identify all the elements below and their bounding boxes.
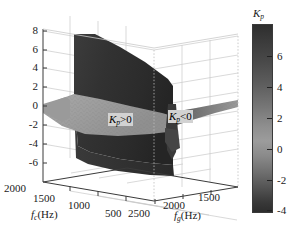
colorbar-tick-mark [267, 118, 272, 119]
annotation-kp-positive-sub: p [116, 118, 120, 127]
annotation-kp-positive-rel: >0 [120, 113, 132, 125]
z-tick-label: 2 [22, 81, 38, 92]
x-tick-label: 500 [105, 208, 122, 219]
z-tick-label: 6 [22, 44, 38, 55]
colorbar-tick-label: 2 [277, 113, 283, 124]
colorbar-tick-mark [267, 56, 272, 57]
annotation-kp-negative: Kp<0 [168, 110, 193, 123]
y-tick-label: 1500 [198, 192, 220, 203]
z-tick-label: -2 [18, 119, 38, 130]
colorbar-tick-mark [267, 87, 272, 88]
colorbar-tick-label: 6 [277, 51, 283, 62]
y-axis-label-unit: (Hz) [181, 209, 201, 221]
z-tick-label: -4 [18, 138, 38, 149]
x-tick-label: 1000 [68, 200, 90, 211]
colorbar-tick-label: -2 [277, 175, 286, 186]
annotation-kp-positive: Kp>0 [108, 113, 133, 126]
plot-area: 8 6 4 2 0 -2 -4 -6 2000 1500 1000 500 25… [0, 0, 250, 237]
x-axis-label-unit: (Hz) [37, 208, 57, 220]
z-tick-label: 4 [22, 62, 38, 73]
colorbar-tick-label: 0 [277, 144, 283, 155]
x-axis-label-sub: c [34, 213, 37, 222]
annotation-kp-negative-rel: <0 [180, 110, 192, 122]
x-tick-label: 1500 [33, 193, 55, 204]
annotation-kp-negative-sub: p [176, 115, 180, 124]
y-axis-label: fg(Hz) [174, 210, 201, 221]
colorbar-title-sub: p [260, 12, 264, 21]
colorbar-tick-label: -4 [277, 205, 286, 216]
colorbar-tick-mark [267, 210, 272, 211]
y-tick-label: 2500 [128, 208, 150, 219]
z-tick-label: -6 [18, 157, 38, 168]
axis-top-edges [43, 29, 238, 48]
figure-3d-surface-plot: 8 6 4 2 0 -2 -4 -6 2000 1500 1000 500 25… [0, 0, 303, 237]
colorbar-tick-label: 4 [277, 82, 283, 93]
x-tick-label: 2000 [4, 183, 26, 194]
colorbar: Kp 6 4 2 0 -2 -4 [252, 24, 303, 219]
x-axis-label: fc(Hz) [31, 209, 58, 220]
z-tick-label: 0 [22, 100, 38, 111]
y-axis-label-sub: g [177, 214, 181, 223]
colorbar-tick-mark [267, 149, 272, 150]
z-tick-label: 8 [22, 25, 38, 36]
colorbar-title: Kp [253, 7, 264, 19]
colorbar-tick-mark [267, 180, 272, 181]
